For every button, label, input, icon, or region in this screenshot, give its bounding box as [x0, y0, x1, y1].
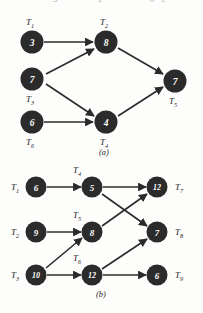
edge-t3-to-t2 — [46, 49, 94, 74]
node-b-t8-label: T8 — [175, 227, 184, 238]
node-a-t6-label: T6 — [26, 137, 35, 148]
node-b-t4-value: 5 — [90, 183, 95, 193]
panel-a-nodes: 3 T1 8 T2 7 T3 — [21, 17, 187, 148]
node-b-t9-value: 6 — [155, 271, 160, 281]
edge-t3-to-t4 — [46, 84, 94, 116]
node-b-t7-value: 12 — [153, 183, 161, 192]
node-b-t2-label: T2 — [11, 227, 19, 238]
node-b-t9-label: T9 — [175, 270, 183, 281]
node-b-t5[interactable]: 8 T5 — [73, 210, 103, 243]
node-a-t4[interactable]: 4 T4 — [95, 111, 118, 149]
node-a-t6-label-sub: 6 — [31, 141, 35, 148]
node-a-t5[interactable]: 7 T5 — [164, 70, 187, 108]
node-b-t6-value: 12 — [88, 271, 96, 280]
figure-root: 3 1 6 1 — [0, 0, 203, 313]
node-b-t2-value: 9 — [34, 228, 39, 238]
node-a-t4-value: 4 — [103, 118, 109, 128]
node-a-t3-label: T3 — [26, 94, 34, 105]
panel-a: 3 T1 8 T2 7 T3 — [0, 0, 203, 160]
node-a-t1-value: 3 — [29, 38, 35, 48]
node-a-t5-label: T5 — [169, 96, 177, 107]
node-a-t1[interactable]: 3 T1 — [21, 17, 44, 54]
panel-b-nodes: 6 T1 9 T2 10 T3 — [11, 165, 184, 286]
node-b-t5-label: T5 — [73, 210, 81, 221]
panel-b: 6 T1 9 T2 10 T3 — [0, 160, 203, 313]
node-b-t2-label-sub: 2 — [16, 231, 19, 238]
node-a-t2-label: T2 — [100, 17, 108, 28]
node-a-t5-label-sub: 5 — [174, 100, 177, 107]
node-a-t1-label: T1 — [26, 17, 34, 28]
node-b-t8-value: 7 — [155, 228, 160, 238]
node-a-t6[interactable]: 6 T6 — [21, 111, 44, 149]
node-b-t8[interactable]: 7 T8 — [147, 222, 184, 243]
node-b-t1-value: 6 — [34, 183, 39, 193]
node-b-t3[interactable]: 10 T3 — [11, 265, 47, 286]
node-a-t6-value: 6 — [30, 118, 35, 128]
node-b-t6-label: T6 — [73, 253, 82, 264]
node-b-t7-label-sub: 7 — [180, 186, 184, 193]
node-b-t8-label-sub: 8 — [180, 231, 184, 238]
node-b-t2[interactable]: 9 T2 — [11, 222, 47, 243]
node-b-t9-label-sub: 9 — [180, 274, 183, 281]
node-b-t3-label: T3 — [11, 270, 19, 281]
panel-a-edges — [44, 42, 163, 122]
node-b-t1[interactable]: 6 T1 — [11, 177, 47, 198]
node-a-t3-label-sub: 3 — [30, 98, 34, 105]
edge-b-t6-to-t8 — [102, 239, 147, 269]
node-b-t7[interactable]: 12 T7 — [147, 177, 184, 198]
node-a-t1-label-sub: 1 — [31, 21, 34, 28]
node-b-t5-label-sub: 5 — [78, 214, 81, 221]
node-b-t4[interactable]: 5 T4 — [73, 165, 103, 198]
node-b-t7-label: T7 — [175, 182, 184, 193]
node-a-t2[interactable]: 8 T2 — [95, 17, 118, 54]
node-b-t1-label: T1 — [11, 182, 19, 193]
node-a-t3[interactable]: 7 T3 — [21, 68, 44, 106]
node-a-t2-value: 8 — [104, 38, 109, 48]
panel-a-caption: (a) — [99, 147, 109, 157]
node-b-t4-label: T4 — [73, 165, 81, 176]
panel-b-caption: (b) — [96, 289, 106, 299]
edge-t4-to-t5 — [118, 87, 163, 116]
edge-t2-to-t5 — [118, 48, 163, 74]
node-b-t9[interactable]: 6 T9 — [147, 265, 184, 286]
node-b-t3-value: 10 — [32, 271, 40, 280]
node-b-t5-value: 8 — [90, 228, 95, 238]
node-a-t2-label-sub: 2 — [105, 21, 108, 28]
node-b-t3-label-sub: 3 — [15, 274, 19, 281]
node-b-t1-label-sub: 1 — [16, 186, 19, 193]
node-b-t6-label-sub: 6 — [78, 257, 82, 264]
node-b-t4-label-sub: 4 — [78, 169, 81, 176]
node-b-t6[interactable]: 12 T6 — [73, 253, 103, 286]
